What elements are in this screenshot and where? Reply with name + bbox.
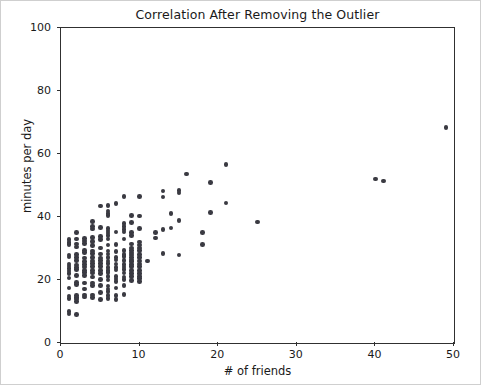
scatter-point <box>98 225 103 230</box>
y-tick-label: 100 <box>1 21 51 34</box>
scatter-point <box>90 224 95 229</box>
x-tick-mark <box>139 342 140 346</box>
scatter-point <box>90 293 95 298</box>
scatter-points-layer <box>61 28 454 343</box>
scatter-point <box>122 221 127 226</box>
scatter-point <box>153 236 158 241</box>
x-tick-mark <box>217 342 218 346</box>
scatter-point <box>122 237 127 242</box>
scatter-point <box>98 277 103 282</box>
scatter-point <box>200 242 205 247</box>
scatter-point <box>373 177 378 182</box>
scatter-point <box>184 172 189 177</box>
scatter-point <box>74 237 79 242</box>
scatter-point <box>90 268 95 273</box>
scatter-point <box>122 283 127 288</box>
scatter-point <box>169 226 174 231</box>
scatter-point <box>98 234 103 239</box>
scatter-point <box>98 246 103 251</box>
scatter-point <box>137 214 142 219</box>
scatter-point <box>114 286 119 291</box>
scatter-point <box>208 210 213 215</box>
scatter-point <box>90 243 95 248</box>
scatter-point <box>74 230 79 235</box>
scatter-point <box>137 252 142 257</box>
scatter-point <box>67 276 72 281</box>
scatter-point <box>137 194 142 199</box>
x-tick-label: 0 <box>57 348 64 361</box>
matplotlib-figure: Correlation After Removing the Outlier 0… <box>1 1 480 384</box>
scatter-point <box>161 189 166 194</box>
scatter-point <box>122 248 127 253</box>
scatter-point <box>98 256 103 261</box>
page-title: Correlation After Removing the Outlier <box>60 7 455 22</box>
scatter-point <box>224 162 229 167</box>
scatter-point <box>153 230 158 235</box>
scatter-point <box>82 256 87 261</box>
scatter-point <box>67 286 72 291</box>
scatter-point <box>74 312 79 317</box>
x-tick-label: 20 <box>210 348 224 361</box>
scatter-point <box>137 226 142 231</box>
scatter-point <box>169 211 174 216</box>
scatter-point <box>122 194 127 199</box>
scatter-point <box>129 220 134 225</box>
y-tick-label: 0 <box>1 336 51 349</box>
scatter-point <box>177 188 182 193</box>
scatter-point <box>114 230 119 235</box>
y-tick-label: 20 <box>1 273 51 286</box>
scatter-point <box>98 252 103 257</box>
scatter-point <box>98 297 103 302</box>
scatter-point <box>98 283 103 288</box>
scatter-point <box>444 125 449 130</box>
y-tick-mark <box>57 279 61 280</box>
scatter-point <box>90 275 95 280</box>
scatter-point <box>208 180 213 185</box>
scatter-point <box>90 281 95 286</box>
scatter-point <box>106 203 111 208</box>
scatter-point <box>114 249 119 254</box>
scatter-point <box>98 204 103 209</box>
scatter-point <box>82 259 87 264</box>
scatter-point <box>74 263 79 268</box>
y-tick-mark <box>57 27 61 28</box>
scatter-point <box>82 248 87 253</box>
scatter-point <box>129 278 134 283</box>
scatter-point <box>106 243 111 248</box>
scatter-plot-screenshot: Correlation After Removing the Outlier 0… <box>0 0 481 385</box>
x-tick-label: 50 <box>446 348 460 361</box>
scatter-point <box>177 253 182 258</box>
x-tick-label: 10 <box>132 348 146 361</box>
scatter-point <box>129 213 134 218</box>
scatter-point <box>200 230 205 235</box>
x-tick-mark <box>296 342 297 346</box>
scatter-point <box>161 251 166 256</box>
scatter-point <box>90 249 95 254</box>
scatter-point <box>74 273 79 278</box>
scatter-point <box>82 281 87 286</box>
scatter-point <box>114 293 119 298</box>
x-axis-label: # of friends <box>60 364 455 378</box>
scatter-point <box>90 219 95 224</box>
scatter-point <box>74 293 79 298</box>
x-tick-mark <box>374 342 375 346</box>
scatter-point <box>90 255 95 260</box>
scatter-point <box>255 220 260 225</box>
plot-axes-area <box>60 27 455 344</box>
y-tick-mark <box>57 342 61 343</box>
scatter-point <box>224 201 229 206</box>
x-tick-mark <box>453 342 454 346</box>
x-tick-label: 40 <box>367 348 381 361</box>
scatter-point <box>161 227 166 232</box>
scatter-point <box>74 280 79 285</box>
scatter-point <box>161 195 166 200</box>
scatter-point <box>98 290 103 295</box>
scatter-point <box>114 201 119 206</box>
scatter-point <box>381 179 386 184</box>
scatter-point <box>114 297 119 302</box>
scatter-point <box>67 237 72 242</box>
scatter-point <box>82 287 87 292</box>
y-axis-label: minutes per day <box>20 86 34 246</box>
scatter-point <box>114 255 119 260</box>
x-tick-label: 30 <box>289 348 303 361</box>
